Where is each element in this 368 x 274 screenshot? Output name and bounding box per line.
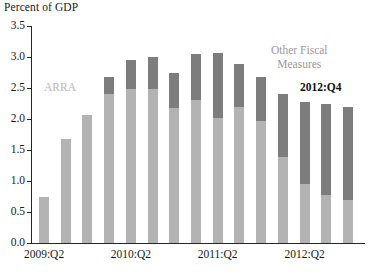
y-axis-tick-label: 1.5 bbox=[11, 144, 25, 156]
bar-segment-other-fiscal-measures bbox=[148, 57, 158, 89]
stacked-bar bbox=[256, 77, 266, 243]
y-axis-tick-label: 0.0 bbox=[11, 237, 25, 249]
stacked-bar bbox=[191, 54, 201, 243]
bar-segment-arra bbox=[300, 184, 310, 243]
y-axis-tick-mark bbox=[27, 212, 32, 213]
x-axis-tick-label: 2009:Q2 bbox=[24, 248, 64, 260]
bar-segment-arra bbox=[126, 89, 136, 243]
x-axis-line bbox=[31, 243, 365, 244]
stacked-bar bbox=[82, 115, 92, 243]
stacked-bar bbox=[61, 139, 71, 243]
arra-series-label: ARRA bbox=[44, 81, 76, 95]
bar-segment-other-fiscal-measures bbox=[104, 77, 114, 94]
bar-segment-other-fiscal-measures bbox=[278, 94, 288, 157]
bar-segment-other-fiscal-measures bbox=[321, 104, 331, 195]
bar-segment-arra bbox=[82, 115, 92, 243]
bar-segment-other-fiscal-measures bbox=[256, 77, 266, 121]
y-axis-tick-label: 1.0 bbox=[11, 175, 25, 187]
y-axis-tick-mark bbox=[27, 26, 32, 27]
bar-segment-other-fiscal-measures bbox=[300, 102, 310, 184]
y-axis-tick-mark bbox=[27, 119, 32, 120]
bar-segment-other-fiscal-measures bbox=[343, 107, 353, 200]
bar-segment-arra bbox=[61, 139, 71, 243]
bar-segment-arra bbox=[213, 118, 223, 243]
bar-segment-arra bbox=[104, 94, 114, 243]
bar-segment-arra bbox=[191, 100, 201, 243]
y-axis-tick-label: 2.5 bbox=[11, 82, 25, 94]
other-fiscal-measures-series-label: Other FiscalMeasures bbox=[271, 44, 328, 71]
bar-segment-arra bbox=[169, 108, 179, 243]
stacked-bar bbox=[148, 57, 158, 243]
fiscal-impact-stacked-bar-chart: Percent of GDP 0.00.51.01.52.02.53.03.5 … bbox=[0, 0, 368, 274]
x-axis-tick-label: 2010:Q2 bbox=[111, 248, 151, 260]
y-axis-tick-label: 2.0 bbox=[11, 113, 25, 125]
stacked-bar bbox=[104, 77, 114, 243]
stacked-bar bbox=[300, 102, 310, 243]
stacked-bar bbox=[278, 94, 288, 243]
y-axis-tick-label: 3.0 bbox=[11, 51, 25, 63]
y-axis-tick-mark bbox=[27, 57, 32, 58]
stacked-bar bbox=[213, 53, 223, 243]
bar-segment-arra bbox=[343, 200, 353, 243]
bar-segment-arra bbox=[39, 197, 49, 244]
bar-segment-arra bbox=[321, 195, 331, 243]
y-axis-title: Percent of GDP bbox=[4, 1, 78, 13]
y-axis-tick-mark bbox=[27, 88, 32, 89]
y-axis-tick-mark bbox=[27, 181, 32, 182]
stacked-bar bbox=[39, 197, 49, 244]
bar-segment-other-fiscal-measures bbox=[213, 53, 223, 117]
stacked-bar bbox=[126, 60, 136, 243]
stacked-bar bbox=[169, 73, 179, 243]
y-axis-tick-label: 0.5 bbox=[11, 206, 25, 218]
bar-segment-other-fiscal-measures bbox=[234, 64, 244, 106]
x-axis-tick-label: 2011:Q2 bbox=[198, 248, 238, 260]
y-axis-tick-mark bbox=[27, 150, 32, 151]
bar-segment-other-fiscal-measures bbox=[126, 60, 136, 89]
other-fiscal-measures-label-line1: Other Fiscal bbox=[271, 44, 328, 58]
y-axis-tick-label: 3.5 bbox=[11, 20, 25, 32]
y-axis-tick-mark bbox=[27, 243, 32, 244]
bar-segment-other-fiscal-measures bbox=[191, 54, 201, 101]
last-observation-label: 2012:Q4 bbox=[300, 81, 342, 95]
x-axis-tick-label: 2012:Q2 bbox=[284, 248, 324, 260]
bar-segment-arra bbox=[234, 107, 244, 243]
bar-segment-arra bbox=[148, 89, 158, 243]
bar-segment-arra bbox=[256, 121, 266, 243]
bar-segment-other-fiscal-measures bbox=[169, 73, 179, 108]
other-fiscal-measures-label-line2: Measures bbox=[271, 58, 328, 72]
stacked-bar bbox=[234, 64, 244, 243]
stacked-bar bbox=[321, 104, 331, 244]
bar-segment-arra bbox=[278, 157, 288, 243]
stacked-bar bbox=[343, 107, 353, 243]
